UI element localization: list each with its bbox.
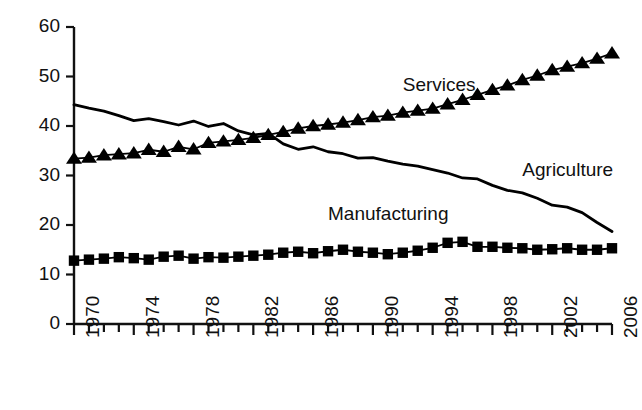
y-axis-tick-label: 30 — [18, 164, 60, 186]
data-point-marker — [114, 252, 124, 262]
data-point-marker — [233, 251, 243, 261]
x-axis-tick-label: 1994 — [441, 296, 463, 338]
data-point-marker — [383, 249, 393, 259]
data-point-marker — [413, 246, 423, 256]
data-point-marker — [577, 245, 587, 255]
data-point-marker — [278, 248, 288, 258]
data-point-marker — [427, 243, 437, 253]
data-point-marker — [69, 255, 79, 265]
x-axis-tick-label: 1990 — [381, 296, 403, 338]
series-line-services — [74, 53, 612, 158]
data-point-marker — [502, 243, 512, 253]
series-layer — [66, 46, 620, 266]
series-services — [66, 46, 620, 164]
data-point-marker — [171, 140, 187, 152]
y-axis-tick-label: 50 — [18, 65, 60, 87]
data-point-marker — [487, 242, 497, 252]
data-point-marker — [141, 143, 157, 155]
y-axis-tick-label: 40 — [18, 114, 60, 136]
x-axis-tick-label: 1970 — [82, 296, 104, 338]
data-point-marker — [158, 251, 168, 261]
data-point-marker — [442, 238, 452, 248]
series-label-manufacturing: Manufacturing — [328, 203, 448, 225]
data-point-marker — [173, 250, 183, 260]
data-point-marker — [547, 244, 557, 254]
y-axis-tick-label: 0 — [18, 312, 60, 334]
data-point-marker — [529, 68, 545, 80]
data-point-marker — [263, 250, 273, 260]
data-point-marker — [218, 252, 228, 262]
data-point-marker — [293, 247, 303, 257]
data-point-marker — [472, 242, 482, 252]
data-point-marker — [84, 254, 94, 264]
data-point-marker — [562, 243, 572, 253]
data-point-marker — [308, 248, 318, 258]
y-axis-tick-label: 60 — [18, 15, 60, 37]
x-axis-tick-label: 1986 — [321, 296, 343, 338]
data-point-marker — [499, 78, 515, 90]
data-point-marker — [368, 248, 378, 258]
data-point-marker — [532, 245, 542, 255]
y-axis-tick-label: 10 — [18, 263, 60, 285]
series-label-agriculture: Agriculture — [522, 159, 613, 181]
data-point-marker — [457, 237, 467, 247]
data-point-marker — [604, 46, 620, 58]
data-point-marker — [129, 253, 139, 263]
data-point-marker — [338, 245, 348, 255]
data-point-marker — [517, 243, 527, 253]
x-axis-tick-label: 1978 — [202, 296, 224, 338]
data-point-marker — [188, 253, 198, 263]
data-point-marker — [589, 51, 605, 63]
series-manufacturing — [69, 237, 617, 266]
data-point-marker — [398, 248, 408, 258]
x-axis-tick-label: 2002 — [560, 296, 582, 338]
data-point-marker — [144, 254, 154, 264]
y-axis-tick-label: 20 — [18, 213, 60, 235]
data-point-marker — [323, 246, 333, 256]
axis-layer — [66, 27, 612, 335]
data-point-marker — [592, 245, 602, 255]
data-point-marker — [203, 252, 213, 262]
data-point-marker — [99, 253, 109, 263]
series-label-services: Services — [403, 74, 476, 96]
x-axis-tick-label: 1974 — [142, 296, 164, 338]
x-axis-tick-label: 1998 — [500, 296, 522, 338]
data-point-marker — [607, 243, 617, 253]
x-axis-tick-label: 2006 — [620, 296, 642, 338]
data-point-marker — [353, 247, 363, 257]
x-axis-tick-label: 1982 — [261, 296, 283, 338]
data-point-marker — [248, 250, 258, 260]
